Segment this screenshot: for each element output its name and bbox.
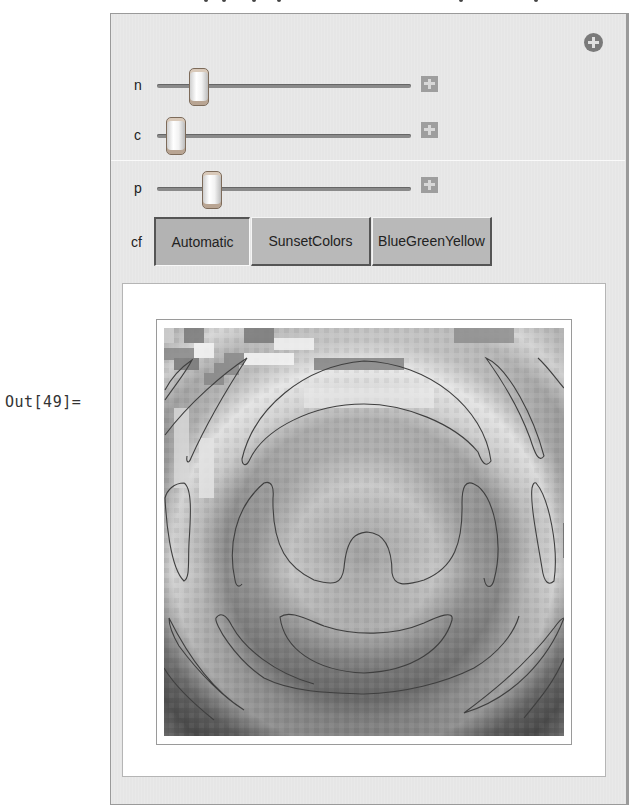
output-label: Out[49]= — [5, 393, 81, 411]
truncated-input-code — [0, 0, 635, 6]
slider-thumb-n[interactable] — [189, 68, 209, 106]
slider-label-p: p — [134, 180, 142, 196]
slider-thumb-c[interactable] — [166, 117, 186, 155]
setter-button-sunsetcolors[interactable]: SunsetColors — [251, 217, 371, 266]
slider-label-n: n — [134, 77, 142, 93]
slider-thumb-p[interactable] — [202, 171, 222, 209]
slider-track-c[interactable] — [157, 134, 411, 138]
plus-icon[interactable] — [421, 177, 438, 193]
setter-button-bluegreenyellow[interactable]: BlueGreenYellow — [372, 217, 492, 266]
setter-button-automatic[interactable]: Automatic — [154, 217, 250, 266]
setter-label-cf: cf — [131, 234, 142, 250]
slider-label-c: c — [134, 127, 141, 143]
density-contour-plot — [164, 328, 564, 736]
plus-circle-icon[interactable] — [584, 33, 603, 52]
plus-icon[interactable] — [421, 76, 438, 92]
plus-icon[interactable] — [421, 122, 438, 138]
control-separator — [111, 160, 625, 161]
slider-track-p[interactable] — [157, 187, 411, 191]
